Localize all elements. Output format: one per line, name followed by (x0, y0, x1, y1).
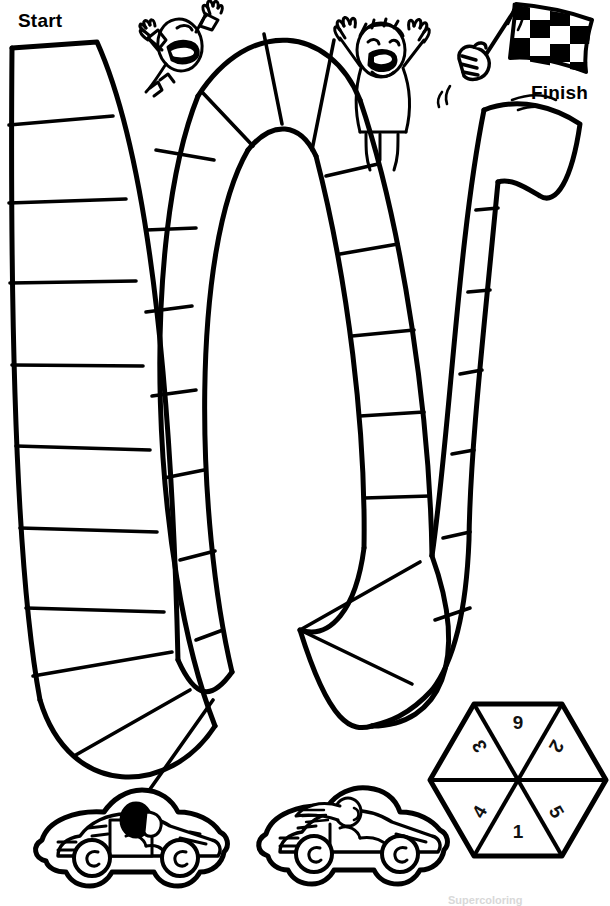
race-car-longhair-driver[interactable] (259, 788, 448, 884)
coloring-page-canvas: 6 2 5 1 4 3 Start Finish Supercoloring (0, 0, 610, 906)
finish-label: Finish (531, 82, 588, 104)
spinner-number-6: 6 (513, 712, 524, 733)
track-lane-1 (12, 42, 178, 700)
cheering-person-right (335, 17, 430, 170)
spinner-number-1: 1 (513, 821, 524, 842)
race-car-helmet-driver[interactable] (36, 790, 228, 886)
footer-watermark: Supercoloring (448, 894, 523, 906)
hexagon-spinner[interactable]: 6 2 5 1 4 3 (430, 704, 606, 856)
track-lane-3 (316, 100, 432, 556)
track-turn-top-middle (198, 40, 360, 156)
track-turn-bottom-right (300, 548, 449, 728)
track-space-dividers (9, 34, 498, 792)
start-label: Start (18, 10, 62, 32)
race-track-board: 6 2 5 1 4 3 (0, 0, 610, 906)
track-lane-2 (160, 96, 248, 726)
track-turn-bottom-left (40, 660, 232, 777)
